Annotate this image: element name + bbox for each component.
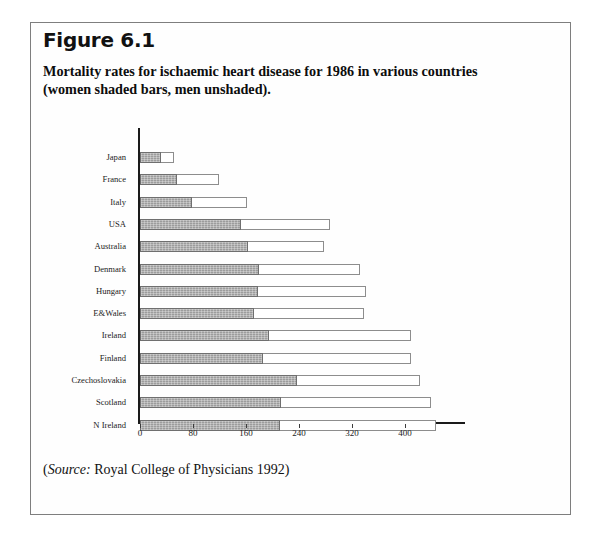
country-label: Hungary — [96, 286, 126, 297]
country-label: E&Wales — [93, 308, 126, 319]
country-label: USA — [109, 219, 126, 230]
bar-row: France — [140, 174, 219, 185]
bar-women — [140, 353, 263, 364]
bar-row: Hungary — [140, 286, 366, 297]
bar-row: USA — [140, 219, 330, 230]
bar-row: Italy — [140, 197, 247, 208]
bar-row: E&Wales — [140, 308, 364, 319]
bar-row: Czechoslovakia — [140, 375, 420, 386]
bar-women — [140, 219, 241, 230]
x-axis-tick-label: 80 — [189, 428, 198, 438]
source-label: Source: — [48, 462, 91, 477]
bar-women — [140, 241, 248, 252]
figure-caption: Mortality rates for ischaemic heart dise… — [43, 62, 503, 98]
bar-women — [140, 375, 297, 386]
country-label: Ireland — [102, 330, 126, 341]
country-label: Czechoslovakia — [72, 375, 126, 386]
country-label: Italy — [110, 197, 126, 208]
source-text: Royal College of Physicians 1992) — [94, 462, 289, 477]
country-label: Japan — [106, 152, 126, 163]
x-axis-tick-label: 0 — [138, 428, 143, 438]
bar-row: Finland — [140, 353, 411, 364]
chart-plot-area: JapanFranceItalyUSAAustraliaDenmarkHunga… — [138, 128, 478, 428]
bar-row: Denmark — [140, 264, 360, 275]
country-label: Denmark — [94, 264, 126, 275]
x-axis-tick-label: 160 — [239, 428, 253, 438]
figure-number: Figure 6.1 — [43, 28, 155, 52]
bar-row: Ireland — [140, 330, 411, 341]
bar-row: Australia — [140, 241, 324, 252]
country-label: Finland — [100, 353, 126, 364]
source-line: (Source: Royal College of Physicians 199… — [43, 462, 289, 478]
bar-women — [140, 264, 259, 275]
bar-women — [140, 286, 258, 297]
x-axis-tick-label: 240 — [292, 428, 306, 438]
bar-row: Japan — [140, 152, 174, 163]
bar-women — [140, 308, 254, 319]
x-axis-tick-label: 400 — [398, 428, 412, 438]
bar-women — [140, 174, 177, 185]
country-label: France — [103, 174, 126, 185]
bar-women — [140, 330, 269, 341]
bar-women — [140, 397, 281, 408]
bar-women — [140, 152, 161, 163]
bar-row: Scotland — [140, 397, 431, 408]
bar-women — [140, 197, 192, 208]
country-label: Scotland — [96, 397, 126, 408]
x-axis-tick-label: 320 — [345, 428, 359, 438]
bar-women — [140, 420, 280, 431]
country-label: N Ireland — [93, 420, 126, 431]
bar-row: N Ireland — [140, 420, 436, 431]
country-label: Australia — [94, 241, 126, 252]
